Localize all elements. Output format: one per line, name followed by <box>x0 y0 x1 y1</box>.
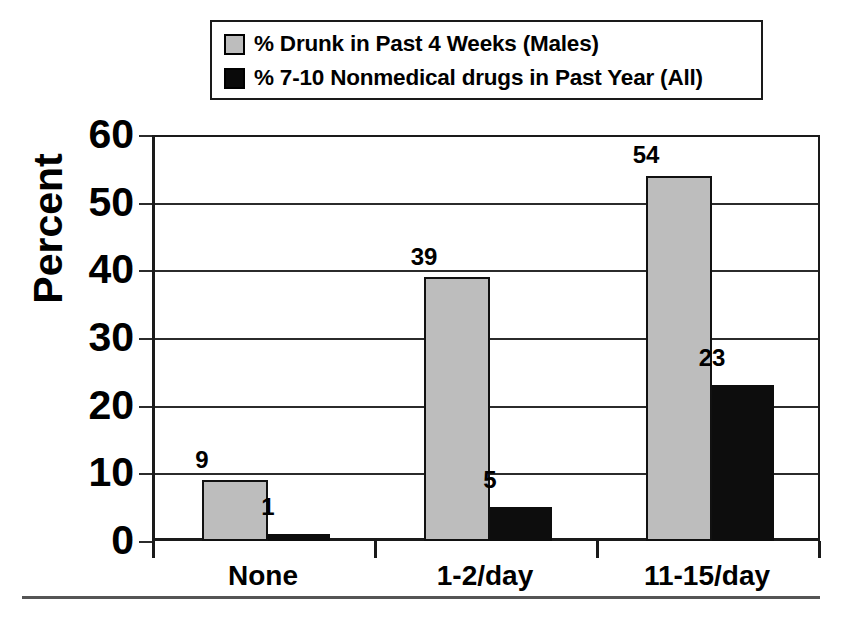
bar-label-11-15day-drugs: 23 <box>681 346 743 370</box>
x-axis-label-11-15day: 11-15/day <box>596 562 818 590</box>
y-tick-mark-10 <box>139 473 152 475</box>
bar-label-none-drunk: 9 <box>169 448 235 472</box>
gridline-30 <box>155 338 818 340</box>
chart-legend: % Drunk in Past 4 Weeks (Males) % 7-10 N… <box>210 20 763 100</box>
bar-label-none-drugs: 1 <box>237 495 299 519</box>
x-tick-mark-end <box>818 541 821 558</box>
y-tick-mark-40 <box>139 270 152 272</box>
bar-label-11-15day-drunk: 54 <box>613 143 679 167</box>
gridline-20 <box>155 406 818 408</box>
gridline-40 <box>155 270 818 272</box>
y-tick-mark-30 <box>139 338 152 340</box>
legend-item-drunk: % Drunk in Past 4 Weeks (Males) <box>224 27 761 61</box>
bar-label-1-2day-drunk: 39 <box>391 245 457 269</box>
legend-label-drunk: % Drunk in Past 4 Weeks (Males) <box>254 33 599 56</box>
x-tick-mark-1 <box>374 541 377 558</box>
x-axis-label-none: None <box>152 562 374 590</box>
x-tick-mark-start <box>152 541 155 558</box>
x-tick-mark-2 <box>596 541 599 558</box>
legend-label-nonmedical-drugs: % 7-10 Nonmedical drugs in Past Year (Al… <box>254 67 703 90</box>
x-axis-label-1-2day: 1-2/day <box>374 562 596 590</box>
bar-chart: % Drunk in Past 4 Weeks (Males) % 7-10 N… <box>0 0 842 618</box>
gridline-50 <box>155 203 818 205</box>
y-tick-mark-60 <box>139 135 152 137</box>
bottom-divider <box>22 596 820 599</box>
legend-item-nonmedical-drugs: % 7-10 Nonmedical drugs in Past Year (Al… <box>224 61 761 95</box>
y-tick-mark-0 <box>139 541 152 543</box>
y-tick-mark-50 <box>139 203 152 205</box>
bar-label-1-2day-drugs: 5 <box>459 468 521 492</box>
y-tick-mark-20 <box>139 406 152 408</box>
legend-swatch-gray-icon <box>224 34 245 55</box>
legend-swatch-black-icon <box>224 68 245 89</box>
